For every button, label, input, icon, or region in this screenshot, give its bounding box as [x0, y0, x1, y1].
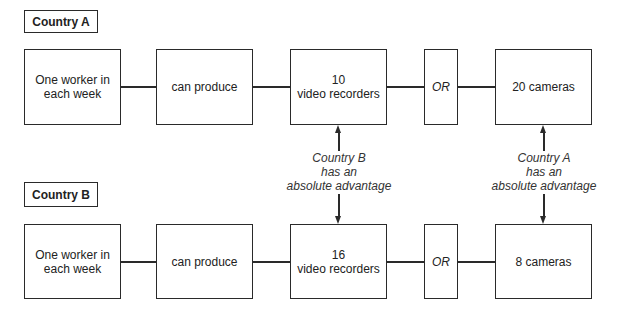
country-b-worker-box: One worker in each week — [24, 224, 121, 299]
country-b-label: Country B — [24, 182, 98, 207]
country-a-cameras: 20 cameras — [512, 80, 575, 94]
country-a-label: Country A — [24, 10, 98, 33]
country-a-verb: can produce — [171, 80, 237, 94]
country-b-or: OR — [432, 255, 450, 269]
connector-a-2 — [253, 86, 290, 88]
country-b-video-qty: 16 — [297, 248, 380, 262]
country-b-verb-box: can produce — [156, 224, 253, 299]
arrow-right-lower-shaft — [543, 194, 545, 217]
connector-b-2 — [253, 261, 290, 263]
right-advantage-note: Country A has an absolute advantage — [479, 151, 609, 193]
connector-b-3 — [387, 261, 424, 263]
country-a-or-box: OR — [424, 49, 458, 125]
arrow-down-icon — [335, 216, 341, 224]
left-note-line1: Country B — [274, 151, 404, 165]
right-note-line1: Country A — [479, 151, 609, 165]
country-b-verb: can produce — [171, 255, 237, 269]
arrow-left-upper-shaft — [338, 131, 340, 151]
country-b-worker-line2: each week — [35, 262, 110, 276]
country-a-worker-line1: One worker in — [35, 73, 110, 87]
country-b-cameras-box: 8 cameras — [495, 224, 592, 299]
country-a-video-item: video recorders — [297, 87, 380, 101]
left-note-line3: absolute advantage — [274, 179, 404, 193]
right-note-line2: has an — [479, 165, 609, 179]
country-a-worker-box: One worker in each week — [24, 49, 121, 125]
country-b-or-box: OR — [424, 224, 458, 299]
left-advantage-note: Country B has an absolute advantage — [274, 151, 404, 193]
connector-b-1 — [121, 261, 156, 263]
country-b-cameras: 8 cameras — [515, 255, 571, 269]
arrow-right-upper-shaft — [543, 131, 545, 151]
country-a-video-qty: 10 — [297, 73, 380, 87]
country-a-or: OR — [432, 80, 450, 94]
arrow-down-icon — [540, 216, 546, 224]
country-a-video-recorders-box: 10 video recorders — [290, 49, 387, 125]
country-b-label-text: Country B — [32, 188, 90, 202]
country-b-worker-line1: One worker in — [35, 248, 110, 262]
connector-a-1 — [121, 86, 156, 88]
connector-a-3 — [387, 86, 424, 88]
country-a-cameras-box: 20 cameras — [495, 49, 592, 125]
left-note-line2: has an — [274, 165, 404, 179]
connector-b-4 — [458, 261, 495, 263]
country-a-label-text: Country A — [32, 15, 90, 29]
connector-a-4 — [458, 86, 495, 88]
country-a-verb-box: can produce — [156, 49, 253, 125]
right-note-line3: absolute advantage — [479, 179, 609, 193]
country-b-video-recorders-box: 16 video recorders — [290, 224, 387, 299]
country-a-worker-line2: each week — [35, 87, 110, 101]
arrow-left-lower-shaft — [338, 194, 340, 217]
country-b-video-item: video recorders — [297, 262, 380, 276]
